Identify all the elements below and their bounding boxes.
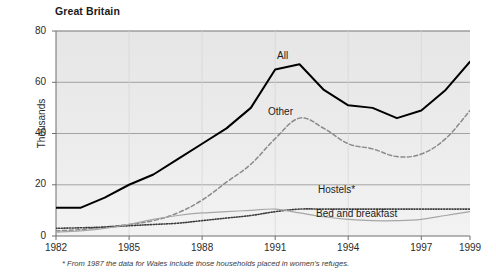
chart-container: Great Britain Thousands 020406080 198219… [0, 0, 496, 277]
footnote: * From 1987 the data for Wales include t… [62, 259, 349, 268]
y-axis-tick-label: 60 [20, 76, 46, 87]
x-axis-tick-label: 1985 [109, 242, 149, 253]
page-title: Great Britain [55, 5, 120, 17]
x-axis-tick-label: 1982 [36, 242, 76, 253]
y-axis-tick-label: 80 [20, 25, 46, 36]
x-axis-tick-label: 1999 [450, 242, 490, 253]
x-axis-tick-label: 1997 [401, 242, 441, 253]
y-axis-tick-label: 20 [20, 178, 46, 189]
y-axis-tick-label: 0 [20, 230, 46, 241]
series-label-bed-and-breakfast: Bed and breakfast [316, 208, 397, 219]
x-axis-tick-label: 1988 [182, 242, 222, 253]
series-label-other: Other [268, 106, 293, 117]
chart-plot [0, 0, 496, 277]
x-axis-tick-label: 1994 [328, 242, 368, 253]
x-axis-tick-label: 1991 [255, 242, 295, 253]
y-axis-tick-label: 40 [20, 127, 46, 138]
y-axis-ticks [52, 31, 56, 236]
series-label-all: All [277, 50, 288, 61]
series-label-hostels: Hostels* [318, 184, 355, 195]
